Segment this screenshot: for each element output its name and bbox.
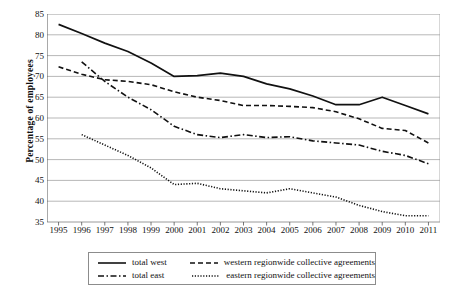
- y-axis-tick: 55: [22, 134, 44, 143]
- legend-sample-dotted-icon: [191, 271, 221, 281]
- legend-sample-dashed-icon: [189, 258, 219, 268]
- x-axis-tick: 2011: [413, 226, 443, 235]
- legend-item-eastern-regionwide: eastern regionwide collective agreements: [191, 271, 375, 281]
- legend-label: eastern regionwide collective agreements: [226, 271, 375, 280]
- series-line-total-west: [59, 24, 429, 113]
- legend-label: total east: [132, 271, 164, 280]
- legend-item-total-west: total west: [89, 258, 189, 268]
- legend-row: total west western regionwide collective…: [89, 256, 375, 269]
- y-axis-tick: 70: [22, 72, 44, 81]
- y-axis-tick-labels: 3540455055606570758085: [20, 14, 44, 222]
- legend-item-total-east: total east: [89, 271, 191, 281]
- legend-label: total west: [132, 258, 167, 267]
- y-axis-tick: 60: [22, 114, 44, 123]
- legend-label: western regionwide collective agreements: [224, 258, 375, 267]
- chart-legend: total west western regionwide collective…: [88, 252, 376, 285]
- series-line-eastern-regionwide-collective-agreements: [82, 135, 429, 216]
- y-axis-tick: 85: [22, 10, 44, 19]
- y-axis-tick: 35: [22, 218, 44, 227]
- legend-item-western-regionwide: western regionwide collective agreements: [189, 258, 375, 268]
- legend-sample-dash-dot-icon: [97, 271, 127, 281]
- line-chart: Percentage of employees 3540455055606570…: [0, 0, 457, 299]
- plot-area: [47, 14, 440, 222]
- legend-sample-solid-icon: [97, 258, 127, 268]
- y-axis-tick: 45: [22, 176, 44, 185]
- y-axis-tick: 40: [22, 197, 44, 206]
- y-axis-tick: 65: [22, 93, 44, 102]
- y-axis-tick: 50: [22, 155, 44, 164]
- x-axis-tick-labels: 1995199619971998199920002001200220032004…: [47, 226, 440, 240]
- series-line-western-regionwide-collective-agreements: [59, 67, 429, 143]
- y-axis-tick: 75: [22, 51, 44, 60]
- legend-row: total east eastern regionwide collective…: [89, 269, 375, 282]
- series-line-total-east: [82, 62, 429, 164]
- y-axis-tick: 80: [22, 30, 44, 39]
- plot-svg: [47, 14, 440, 227]
